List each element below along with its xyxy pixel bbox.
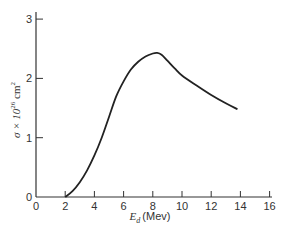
axes: [36, 12, 272, 197]
y-tick-label: 0: [26, 191, 32, 203]
y-tick-label: 3: [26, 13, 32, 25]
x-tick-label: 4: [91, 200, 97, 212]
y-tick-label: 1: [26, 132, 32, 144]
y-tick-label: 2: [26, 72, 32, 84]
x-axis-label: Ed(Mev): [129, 210, 171, 225]
y-ticks: 0123: [26, 13, 43, 203]
cross-section-chart: 0246810121416 0123 Ed(Mev) σ × 1026 cm2: [0, 0, 284, 232]
y-axis-label: σ × 1026 cm2: [9, 81, 22, 138]
x-tick-label: 14: [234, 200, 246, 212]
cross-section-curve: [65, 53, 237, 197]
x-tick-label: 6: [121, 200, 127, 212]
x-tick-label: 0: [33, 200, 39, 212]
x-tick-label: 10: [176, 200, 188, 212]
x-tick-label: 16: [263, 200, 275, 212]
x-tick-label: 12: [205, 200, 217, 212]
x-tick-label: 2: [62, 200, 68, 212]
